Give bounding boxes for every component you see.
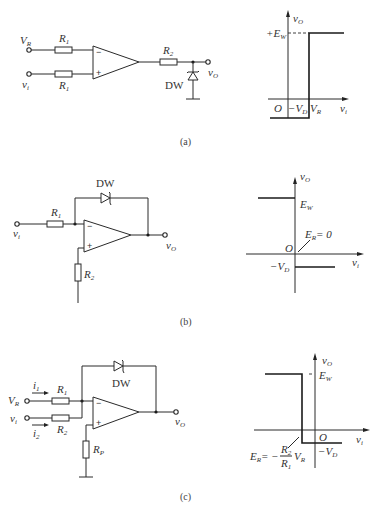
caption-b: (b) [180, 316, 192, 328]
svg-text:vi: vi [10, 412, 17, 426]
svg-text:R1: R1 [58, 32, 69, 46]
svg-text:+EW: +EW [266, 27, 287, 41]
input-terminal-vi [27, 72, 31, 76]
svg-text:R2: R2 [162, 44, 174, 58]
svg-text:VR: VR [294, 450, 306, 464]
svg-text:R1: R1 [56, 383, 67, 397]
svg-text:vO: vO [293, 12, 303, 26]
zener-diode-icon [114, 361, 123, 371]
svg-text:vO: vO [300, 170, 310, 184]
resistor-r1-bottom [55, 71, 72, 77]
input-terminal-vr [25, 399, 29, 403]
svg-text:−: − [87, 221, 92, 231]
svg-text:DW: DW [112, 377, 131, 389]
svg-text:vO: vO [208, 66, 218, 80]
svg-text:vO: vO [175, 415, 185, 429]
svg-text:O: O [285, 242, 293, 254]
zener-diode-icon [101, 193, 110, 203]
svg-text:vi: vi [356, 433, 363, 447]
svg-text:−VD: −VD [270, 260, 289, 274]
svg-text:vi: vi [13, 227, 20, 241]
svg-text:i2: i2 [33, 427, 40, 441]
svg-text:vi: vi [22, 78, 29, 92]
resistor-r2 [75, 264, 81, 281]
svg-text:EW: EW [299, 198, 314, 212]
svg-text:DW: DW [96, 177, 115, 189]
inverting-sign: − [96, 47, 101, 57]
resistor-r2 [52, 415, 69, 421]
svg-text:VR: VR [20, 34, 32, 48]
svg-text:O: O [319, 431, 327, 443]
caption-c: (c) [180, 491, 191, 503]
resistor-r2 [160, 59, 177, 65]
svg-text:R2: R2 [83, 268, 95, 282]
panel-c-transfer-graph: vO EW O −VD vi ER= − R2 R1 VR [249, 353, 370, 471]
diode-label: DW [165, 79, 184, 91]
panel-b-transfer-graph: vO EW ER= 0 O −VD vi [246, 170, 364, 293]
svg-text:vi: vi [340, 102, 347, 116]
svg-text:−VD: −VD [318, 445, 337, 459]
comparator-figure: − + VR vi R1 R1 R2 DW vO vO +EW O −V [0, 0, 378, 514]
svg-text:R1: R1 [280, 457, 291, 471]
input-terminal-vi [25, 416, 29, 420]
input-terminal-vi [15, 222, 19, 226]
svg-text:−: − [96, 398, 101, 408]
svg-text:VR: VR [8, 394, 20, 408]
resistor-rp [83, 441, 89, 458]
resistor-r1-top [55, 47, 72, 53]
svg-text:R1: R1 [58, 79, 69, 93]
output-terminal-vo [206, 60, 210, 64]
svg-text:vi: vi [352, 256, 359, 270]
noninverting-sign: + [96, 68, 101, 78]
svg-text:ER= −: ER= − [249, 450, 279, 464]
panel-c-circuit: − + i1 R1 VR vi R2 i2 DW RP vO [8, 360, 185, 477]
transfer-curve [265, 374, 342, 443]
svg-text:vO: vO [322, 354, 332, 368]
svg-text:R2: R2 [56, 423, 68, 437]
svg-text:+: + [96, 418, 101, 428]
input-terminal-vr [27, 48, 31, 52]
svg-text:EW: EW [318, 369, 333, 383]
threshold-formula: ER= − R2 R1 VR [249, 443, 306, 471]
svg-text:R2: R2 [280, 443, 292, 457]
svg-text:R1: R1 [50, 206, 61, 220]
caption-a: (a) [180, 136, 191, 148]
svg-text:RP: RP [92, 443, 105, 457]
resistor-r1 [47, 221, 63, 227]
svg-text:ER= 0: ER= 0 [304, 228, 332, 242]
svg-text:i1: i1 [33, 379, 40, 393]
svg-text:vO: vO [166, 239, 176, 253]
svg-text:VR: VR [310, 102, 322, 116]
resistor-r1 [52, 398, 69, 404]
output-terminal-vo [174, 410, 178, 414]
panel-a-circuit: − + VR vi R1 R1 R2 DW vO [20, 32, 218, 99]
panel-b-circuit: − + DW R1 vi R2 vO [13, 177, 176, 303]
zener-diode-icon [188, 72, 198, 80]
output-terminal-vo [163, 233, 167, 237]
panel-a-transfer-graph: vO +EW O −VD VR vi [266, 10, 349, 118]
svg-text:+: + [87, 241, 92, 251]
svg-text:−VD: −VD [288, 102, 307, 116]
svg-text:O: O [274, 102, 282, 114]
